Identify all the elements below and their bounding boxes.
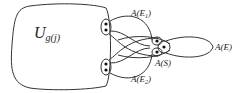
region-u-outline — [11, 4, 110, 90]
vertex-dot — [104, 62, 107, 65]
vertex-dot — [155, 39, 158, 42]
edge-e-loop — [166, 37, 213, 57]
label-e: A(E) — [214, 42, 232, 52]
vertex-dot — [162, 45, 165, 48]
label-s: A(S) — [154, 58, 171, 68]
hypergraph-diagram: Ug(j) A(E1) A(E2) A(S) A(E) — [0, 0, 247, 93]
vertex-dot — [104, 68, 107, 71]
vertex-dot — [104, 22, 107, 25]
label-e1: A(E1) — [130, 8, 151, 19]
region-label: Ug(j) — [34, 24, 61, 44]
vertex-dot — [104, 28, 107, 31]
vertex-dot — [155, 50, 158, 53]
label-e2: A(E2) — [130, 74, 151, 85]
